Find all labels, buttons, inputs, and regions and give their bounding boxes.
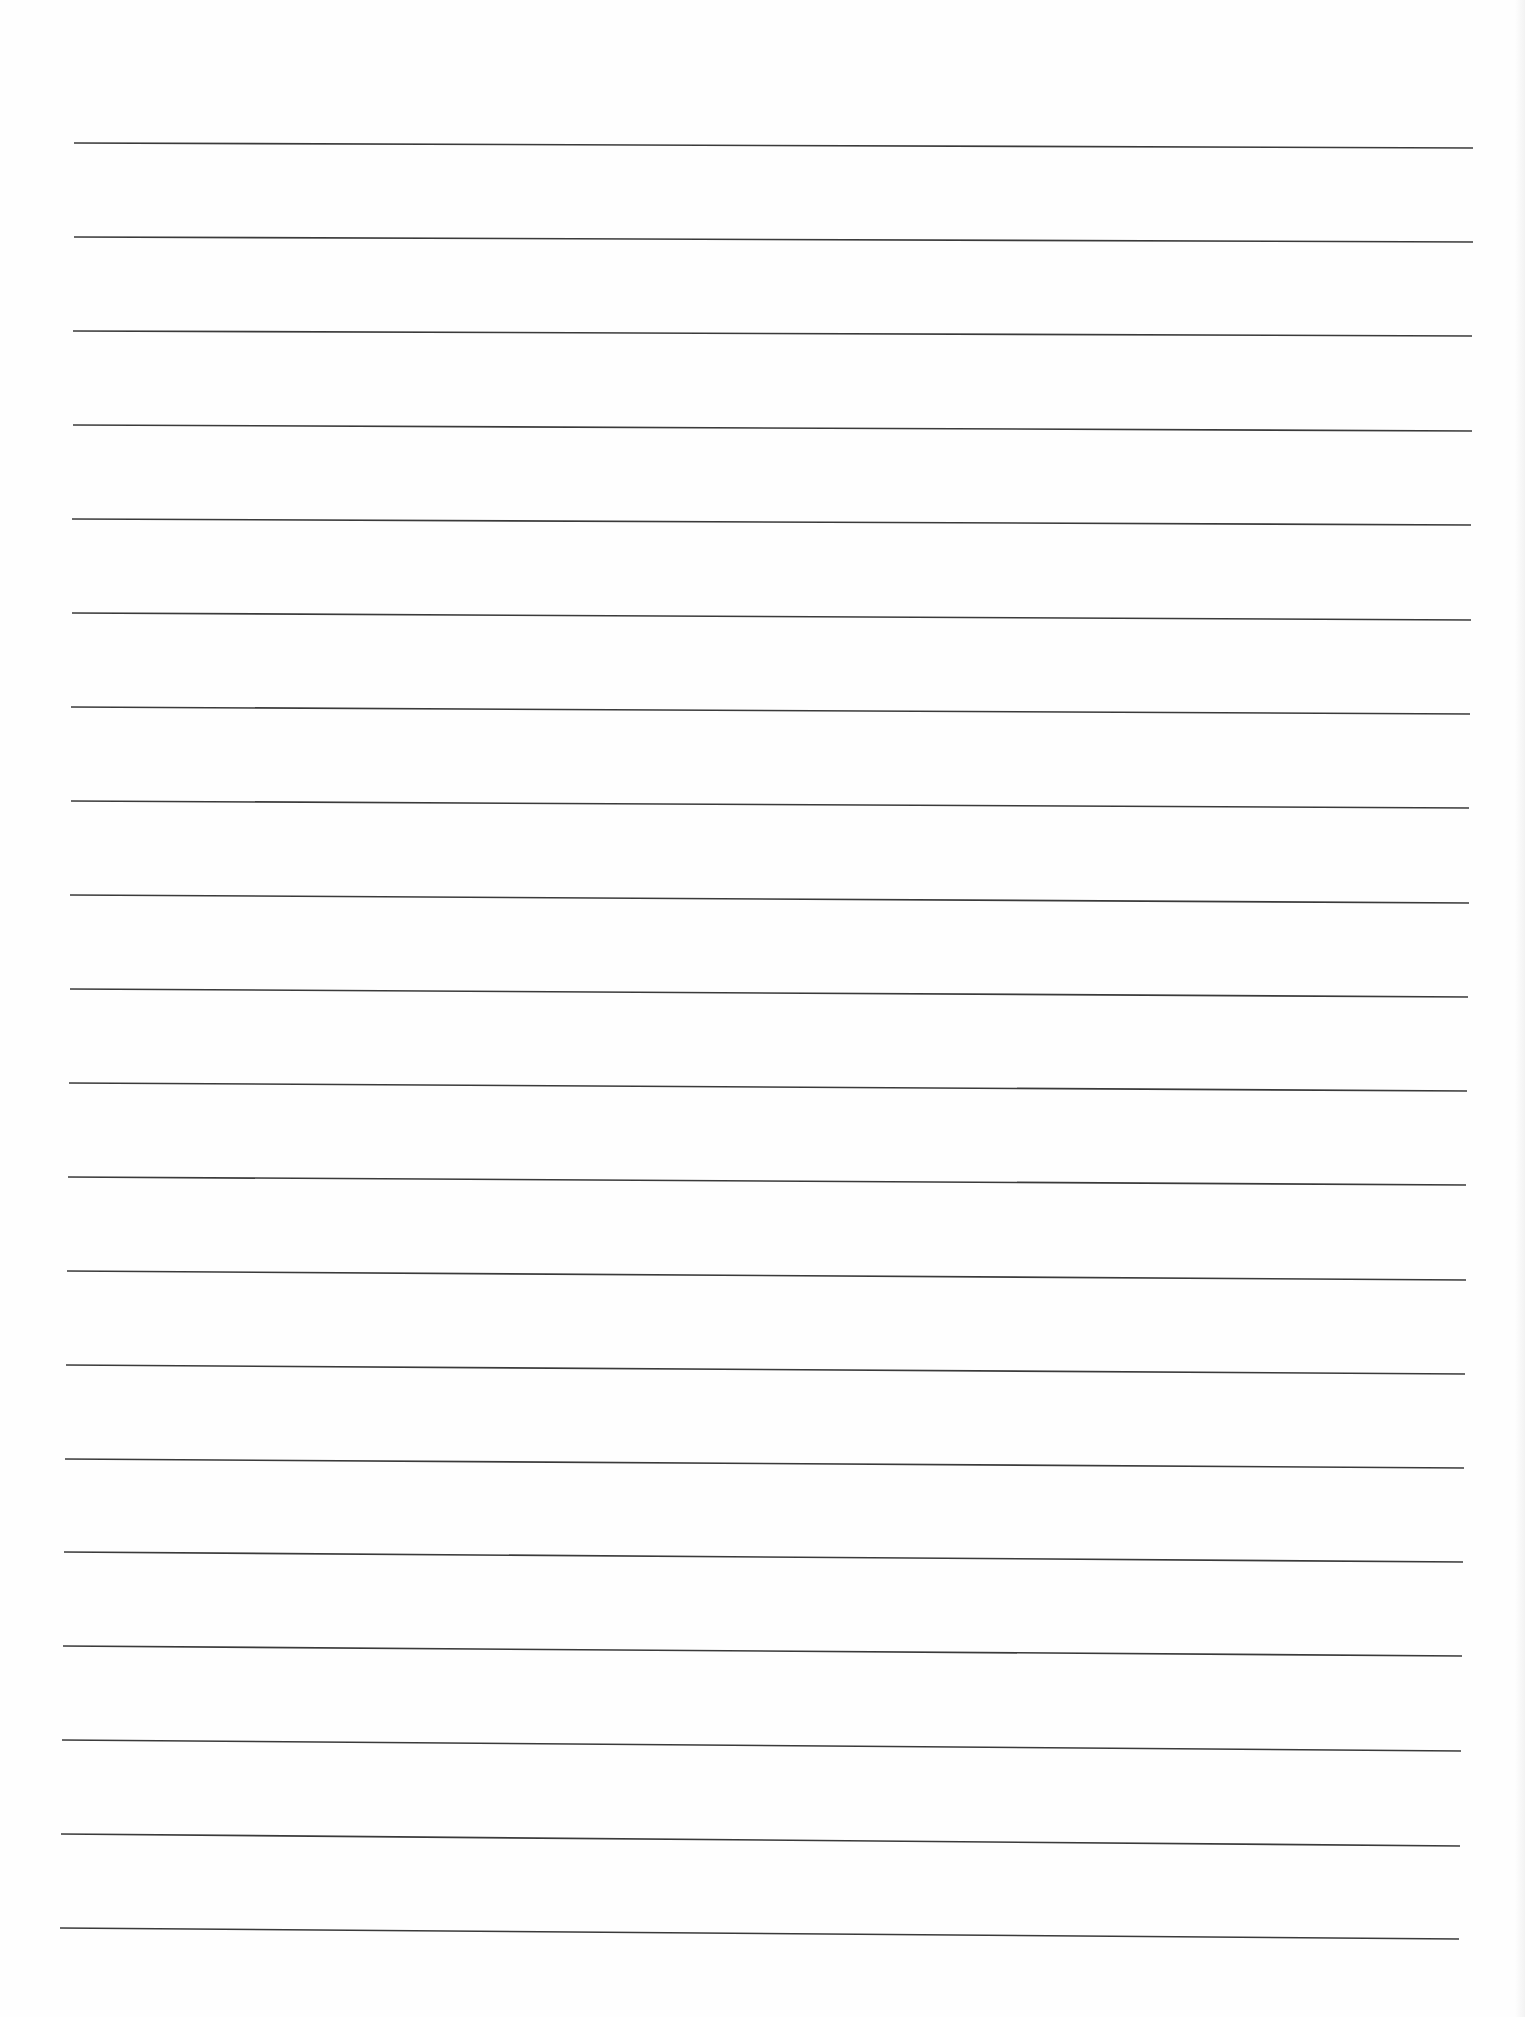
ruled-line: [64, 1552, 1463, 1562]
ruled-line: [60, 1928, 1459, 1939]
ruled-line: [72, 613, 1471, 620]
ruled-line: [72, 519, 1471, 525]
ruled-line: [61, 1834, 1460, 1846]
ruled-line: [71, 707, 1470, 714]
ruled-line: [74, 237, 1473, 242]
ruled-line: [62, 1740, 1461, 1751]
ruled-line: [73, 331, 1472, 336]
ruled-line: [71, 801, 1469, 808]
ruled-line: [70, 989, 1468, 997]
ruled-line: [65, 1459, 1464, 1468]
ruled-line: [70, 895, 1469, 903]
ruled-line: [66, 1365, 1465, 1374]
ruled-line: [74, 143, 1473, 148]
ruled-line: [68, 1177, 1466, 1185]
ruled-line: [67, 1271, 1466, 1280]
ruled-lines: [0, 0, 1525, 2017]
page-edge-shadow: [1515, 0, 1525, 2017]
ruled-line: [69, 1083, 1467, 1091]
lined-paper-page: [0, 0, 1525, 2017]
ruled-line: [63, 1646, 1462, 1656]
ruled-line: [73, 425, 1472, 431]
